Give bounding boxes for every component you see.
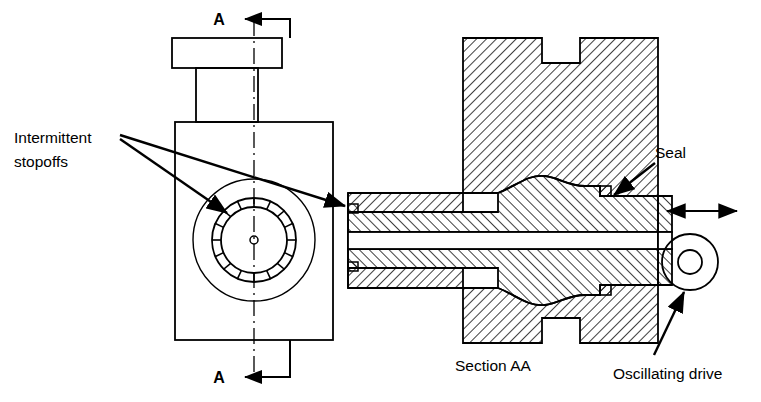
- section-mark-top-label: A: [213, 11, 225, 28]
- plan-view-top-cap: [172, 38, 282, 68]
- oscillating-drive-label: Oscillating drive: [613, 365, 722, 382]
- stopoff-block-lower: [348, 262, 358, 271]
- section-mark-bottom: [245, 340, 290, 377]
- leader-intermittent-stopoffs-to-section: [120, 135, 345, 206]
- section-aa-caption: Section AA: [455, 357, 531, 374]
- leader-intermittent-stopoffs-to-ring: [120, 139, 227, 213]
- stopoff-ring-detail: [193, 179, 315, 301]
- plan-view: [172, 38, 333, 340]
- seal-label: Seal: [655, 144, 686, 161]
- section-aa-geometry: [348, 38, 672, 343]
- shaft-right-bore: [658, 232, 672, 249]
- drawing-canvas: A A: [0, 0, 761, 402]
- drive-wheel-inner-circle: [678, 250, 702, 274]
- shaft-right-upper: [658, 196, 672, 232]
- technical-drawing-figure: A A: [0, 0, 761, 402]
- seal-notch-lower: [600, 285, 611, 295]
- section-mark-bottom-label: A: [213, 369, 225, 386]
- stopoff-block-upper: [348, 204, 358, 213]
- seal-notch-upper: [600, 186, 611, 196]
- shaft-bore: [348, 232, 658, 249]
- section-mark-top: [245, 19, 290, 38]
- section-left-lower-wall: [348, 268, 463, 288]
- intermittent-stopoffs-label-line2: stopoffs: [14, 153, 68, 170]
- plan-view-neck: [196, 68, 258, 122]
- section-upper-body: [463, 38, 658, 196]
- intermittent-stopoffs-label-line1: Intermittent: [14, 129, 92, 146]
- shaft-right-lower: [658, 249, 672, 285]
- section-left-upper-wall: [348, 193, 463, 212]
